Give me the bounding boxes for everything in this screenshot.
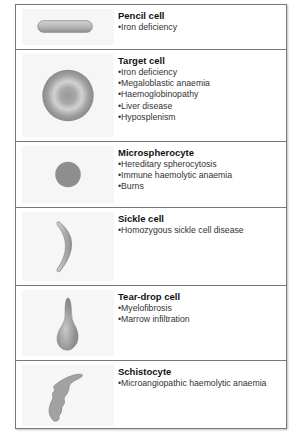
cause-item: Microangiopathic haemolytic anaemia xyxy=(118,378,282,389)
pencil-cell-icon xyxy=(22,9,114,45)
cell-title: Microspherocyte xyxy=(118,147,282,159)
row-sickle-cell: Sickle cell Homozygous sickle cell disea… xyxy=(16,208,286,286)
cause-item: Myelofibrosis xyxy=(118,303,282,314)
tear-drop-cell-icon xyxy=(22,290,114,356)
cell-title: Tear-drop cell xyxy=(118,291,282,303)
cause-item: Homozygous sickle cell disease xyxy=(118,225,282,236)
microspherocyte-icon xyxy=(22,146,114,203)
row-microspherocyte: Microspherocyte Hereditary spherocytosis… xyxy=(16,142,286,208)
cause-item: Megaloblastic anaemia xyxy=(118,78,282,89)
target-cell-icon xyxy=(22,54,114,137)
cell-title: Schistocyte xyxy=(118,366,282,378)
red-cell-morphology-table: Pencil cell Iron deficiency Target cell … xyxy=(15,4,287,429)
row-tear-drop-cell: Tear-drop cell Myelofibrosis Marrow infi… xyxy=(16,286,286,361)
cell-title: Sickle cell xyxy=(118,213,282,225)
sickle-cell-icon xyxy=(22,212,114,281)
cell-title: Pencil cell xyxy=(118,10,282,22)
cause-item: Hereditary spherocytosis xyxy=(118,159,282,170)
cause-item: Burns xyxy=(118,181,282,192)
cell-title: Target cell xyxy=(118,55,282,67)
cause-item: Liver disease xyxy=(118,101,282,112)
row-pencil-cell: Pencil cell Iron deficiency xyxy=(16,5,286,50)
row-schistocyte: Schistocyte Microangiopathic haemolytic … xyxy=(16,361,286,430)
cause-item: Iron deficiency xyxy=(118,67,282,78)
cause-item: Marrow infiltration xyxy=(118,314,282,325)
schistocyte-icon xyxy=(22,365,114,426)
cause-item: Immune haemolytic anaemia xyxy=(118,170,282,181)
row-target-cell: Target cell Iron deficiency Megaloblasti… xyxy=(16,50,286,142)
cause-item: Haemoglobinopathy xyxy=(118,89,282,100)
cause-item: Iron deficiency xyxy=(118,22,282,33)
cause-item: Hyposplenism xyxy=(118,112,282,123)
